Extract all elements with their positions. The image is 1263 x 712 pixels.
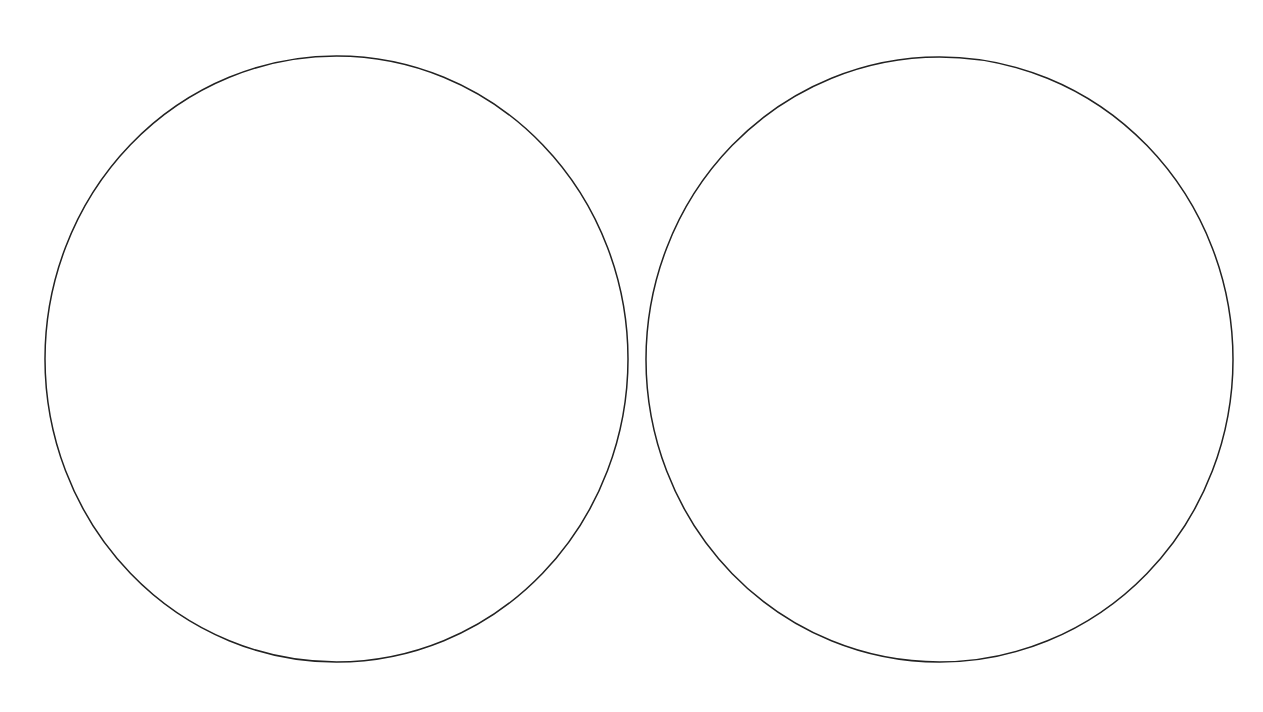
diagram-canvas — [0, 0, 1263, 712]
circles-diagram — [0, 0, 1263, 712]
left-circle — [45, 56, 628, 662]
right-circle — [646, 57, 1233, 662]
